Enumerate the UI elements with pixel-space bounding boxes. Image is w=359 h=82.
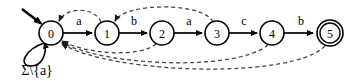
failure-transition-5-to-0 <box>62 44 325 69</box>
state-0[interactable]: 0 <box>39 21 63 45</box>
state-1[interactable]: 1 <box>95 21 119 45</box>
state-4[interactable]: 4 <box>260 21 284 45</box>
state-1-label: 1 <box>104 27 110 41</box>
state-5-accepting[interactable]: 5 <box>317 20 343 46</box>
state-0-label: 0 <box>48 27 54 41</box>
state-5-label: 5 <box>327 27 333 41</box>
state-2-label: 2 <box>159 27 165 41</box>
state-2[interactable]: 2 <box>150 21 174 45</box>
transition-label-0-1: a <box>76 14 82 28</box>
transition-label-1-2: b <box>131 14 137 28</box>
automaton-diagram: 0 1 2 3 4 5 a b a c b Σ\{a} <box>0 0 359 82</box>
self-loop-label: Σ\{a} <box>21 63 53 78</box>
transition-label-2-3: a <box>186 14 192 28</box>
state-3-label: 3 <box>214 27 220 41</box>
state-4-label: 4 <box>269 27 275 41</box>
transition-label-3-4: c <box>241 14 246 28</box>
transition-label-4-5: b <box>298 14 304 28</box>
start-arrow-marker <box>22 9 41 24</box>
automaton-canvas: 0 1 2 3 4 5 a b a c b Σ\{a} <box>0 0 359 82</box>
state-3[interactable]: 3 <box>205 21 229 45</box>
failure-transition-3-to-1 <box>115 7 213 22</box>
failure-transition-4-to-0 <box>62 43 268 63</box>
